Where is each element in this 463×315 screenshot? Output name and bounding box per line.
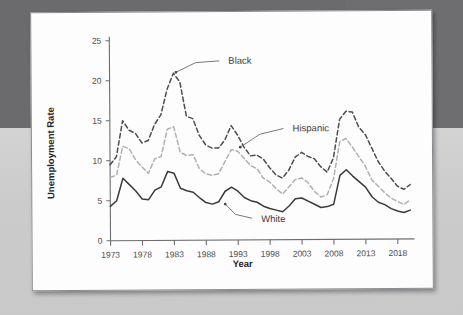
annotation-anchor-white	[224, 203, 227, 206]
annotation-leader-black	[176, 61, 219, 72]
y-axis-title: Unemployment Rate	[45, 107, 57, 199]
chart-page: 0510152025197319781983198819931998200320…	[30, 10, 434, 291]
x-tick-label: 2013	[356, 248, 375, 258]
x-axis-title: Year	[233, 258, 253, 269]
unemployment-rate-line-chart: 0510152025197319781983198819931998200320…	[31, 11, 433, 290]
series-line-white	[110, 169, 410, 214]
annotation-anchor-black	[174, 71, 177, 74]
y-tick-label: 20	[92, 76, 102, 86]
y-tick-label: 0	[98, 236, 103, 246]
chart-annotations: BlackHispanicWhite	[174, 54, 329, 224]
x-tick-label: 2008	[325, 248, 344, 258]
x-tick-label: 1983	[165, 249, 184, 259]
y-tick-label: 5	[98, 196, 103, 206]
x-tick-label: 2018	[388, 248, 407, 258]
annotation-leader-hispanic	[240, 128, 284, 147]
series-label-white: White	[261, 213, 285, 224]
y-tick-label: 25	[92, 36, 102, 46]
y-tick-label: 15	[92, 116, 102, 126]
y-tick-label: 10	[93, 156, 103, 166]
chart-axes: 0510152025197319781983198819931998200320…	[92, 34, 415, 260]
annotation-leader-white	[225, 204, 252, 219]
x-axis-line	[111, 239, 415, 241]
x-tick-label: 1988	[197, 249, 216, 259]
series-line-hispanic	[110, 125, 410, 206]
series-label-black: Black	[228, 55, 252, 66]
x-tick-label: 1978	[133, 249, 152, 259]
chart-figure: 0510152025197319781983198819931998200320…	[31, 11, 433, 290]
y-axis-line	[109, 37, 110, 241]
x-tick-label: 2003	[293, 249, 312, 259]
annotation-anchor-hispanic	[239, 146, 242, 149]
series-label-hispanic: Hispanic	[293, 122, 330, 133]
x-tick-label: 1998	[261, 249, 280, 259]
chart-series	[110, 72, 411, 215]
x-tick-label: 1973	[101, 250, 120, 260]
